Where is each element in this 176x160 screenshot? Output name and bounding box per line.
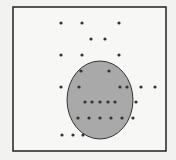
data-point bbox=[60, 133, 63, 136]
data-point bbox=[134, 100, 137, 103]
data-point bbox=[83, 100, 86, 103]
data-point bbox=[77, 85, 80, 88]
data-point bbox=[118, 85, 121, 88]
data-point bbox=[80, 53, 83, 56]
data-point bbox=[113, 100, 116, 103]
data-point bbox=[81, 133, 84, 136]
shaded-ellipse-region bbox=[67, 61, 133, 139]
data-point bbox=[120, 116, 123, 119]
data-point bbox=[71, 133, 74, 136]
data-point bbox=[79, 69, 82, 72]
data-point bbox=[98, 116, 101, 119]
data-point bbox=[153, 85, 156, 88]
data-point bbox=[90, 100, 93, 103]
data-point bbox=[139, 85, 142, 88]
data-point bbox=[59, 85, 62, 88]
data-point bbox=[125, 85, 128, 88]
data-point bbox=[117, 53, 120, 56]
data-point bbox=[107, 69, 110, 72]
data-point bbox=[103, 37, 106, 40]
data-point bbox=[98, 100, 101, 103]
scatter-region-diagram bbox=[0, 0, 176, 160]
data-point bbox=[80, 21, 83, 24]
data-point bbox=[109, 116, 112, 119]
data-point bbox=[59, 21, 62, 24]
data-point bbox=[89, 37, 92, 40]
data-point bbox=[59, 53, 62, 56]
data-point bbox=[76, 116, 79, 119]
data-point bbox=[131, 116, 134, 119]
data-point bbox=[87, 116, 90, 119]
data-point bbox=[117, 21, 120, 24]
data-point bbox=[106, 100, 109, 103]
